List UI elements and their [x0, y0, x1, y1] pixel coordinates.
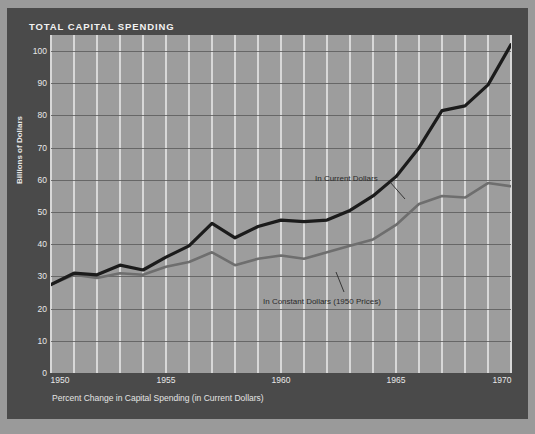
series-annotation: In Current Dollars	[315, 174, 378, 183]
x-tick-label: 1965	[387, 375, 406, 385]
y-tick-label: 90	[7, 78, 47, 88]
plot-area	[51, 35, 511, 373]
y-tick-label: 100	[7, 46, 47, 56]
y-tick-label: 60	[7, 175, 47, 185]
x-axis-tick-labels: 19501955196019651970	[51, 375, 521, 389]
y-tick-label: 50	[7, 207, 47, 217]
series-line	[51, 183, 511, 284]
y-tick-label: 0	[7, 368, 47, 378]
y-tick-label: 30	[7, 271, 47, 281]
y-tick-label: 80	[7, 110, 47, 120]
y-tick-label: 20	[7, 304, 47, 314]
chart-title: TOTAL CAPITAL SPENDING	[29, 21, 175, 32]
series-lines	[51, 35, 511, 373]
x-tick-label: 1950	[51, 375, 70, 385]
y-axis-tick-labels: 0102030405060708090100	[7, 35, 47, 373]
y-tick-label: 40	[7, 239, 47, 249]
chart-caption: Percent Change in Capital Spending (in C…	[52, 393, 264, 403]
series-annotation: In Constant Dollars (1950 Prices)	[263, 297, 381, 306]
x-tick-label: 1970	[493, 375, 512, 385]
y-tick-label: 10	[7, 336, 47, 346]
y-tick-label: 70	[7, 143, 47, 153]
x-tick-label: 1960	[272, 375, 291, 385]
chart-figure: TOTAL CAPITAL SPENDING Billions of Dolla…	[7, 8, 528, 419]
series-line	[51, 45, 511, 285]
x-tick-label: 1955	[157, 375, 176, 385]
